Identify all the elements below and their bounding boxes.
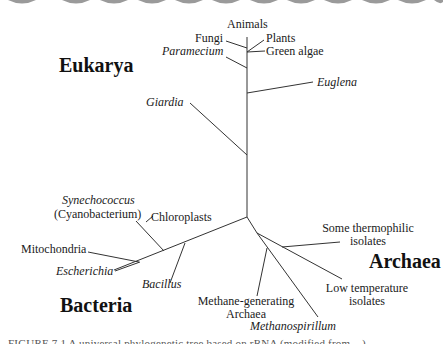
taxon-thermophilic-isolates: Some thermophilic isolates bbox=[313, 222, 423, 248]
taxon-chloroplasts: Chloroplasts bbox=[151, 211, 212, 224]
taxon-giardia: Giardia bbox=[146, 96, 184, 109]
branch-giardia bbox=[190, 103, 247, 155]
branch-plants bbox=[247, 40, 264, 52]
taxon-methane-generating-archaea: Methane-generating Archaea bbox=[186, 295, 306, 321]
taxon-paramecium: Paramecium bbox=[162, 45, 223, 58]
taxon-thermophilic-line2: isolates bbox=[313, 235, 423, 248]
taxon-euglena: Euglena bbox=[317, 76, 357, 89]
taxon-bacillus: Bacillus bbox=[142, 278, 181, 291]
branch-paramecium bbox=[226, 57, 247, 68]
branch-green-algae bbox=[247, 51, 265, 52]
domain-label-archaea: Archaea bbox=[369, 250, 441, 272]
taxon-methanospirillum: Methanospirillum bbox=[250, 320, 336, 333]
branch-fungi bbox=[226, 41, 247, 48]
branch-methane-generating bbox=[257, 248, 267, 296]
figure-caption: FIGURE 7.1 A universal phylogenetic tree… bbox=[8, 337, 443, 344]
domain-label-eukarya: Eukarya bbox=[59, 54, 133, 76]
taxon-synechococcus: Synechococcus bbox=[62, 194, 135, 207]
taxon-low-temperature-line2: isolates bbox=[317, 295, 417, 308]
domain-label-bacteria: Bacteria bbox=[60, 294, 132, 316]
branch-synechococcus bbox=[136, 221, 164, 251]
taxon-escherichia: Escherichia bbox=[56, 265, 113, 278]
taxon-mitochondria: Mitochondria bbox=[21, 243, 86, 256]
taxon-low-temperature-isolates: Low temperature isolates bbox=[317, 282, 417, 308]
bacteria-trunk bbox=[114, 217, 247, 270]
archaea-stem bbox=[247, 217, 257, 233]
taxon-green-algae: Green algae bbox=[266, 45, 324, 58]
taxon-animals: Animals bbox=[227, 18, 268, 31]
branch-escherichia bbox=[115, 262, 140, 271]
taxon-cyanobacterium: (Cyanobacterium) bbox=[54, 208, 141, 221]
branch-euglena bbox=[247, 82, 313, 93]
branch-mitochondria bbox=[88, 252, 139, 262]
